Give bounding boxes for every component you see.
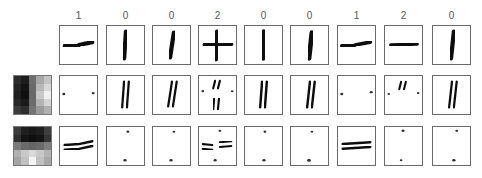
input-image-4 xyxy=(198,25,237,65)
kernel-pixel xyxy=(21,106,28,114)
column-label-6: 0 xyxy=(290,10,329,22)
vertical-stroke-icon xyxy=(107,26,144,64)
cross-stroke-icon xyxy=(199,26,236,64)
kernel-pixel xyxy=(29,106,36,114)
input-image-2 xyxy=(106,25,145,65)
input-image-5 xyxy=(244,25,283,65)
horizontal-response-3 xyxy=(152,126,191,166)
kernel-pixel xyxy=(36,157,43,165)
kernel-pixel xyxy=(21,84,28,92)
input-image-8 xyxy=(384,25,423,65)
kernel-pixel xyxy=(44,135,51,143)
kernel-pixel xyxy=(14,91,21,99)
kernel-pixel xyxy=(29,76,36,84)
input-image-7 xyxy=(337,25,376,65)
cross-stroke-icon xyxy=(199,127,236,165)
vertical-response-9 xyxy=(432,75,471,115)
horizontal-edge-kernel xyxy=(13,126,52,166)
vertical-response-4 xyxy=(198,75,237,115)
cross-stroke-icon xyxy=(385,76,422,114)
vertical-response-7 xyxy=(337,75,376,115)
input-image-1 xyxy=(59,25,98,65)
horizontal-stroke-icon xyxy=(60,76,97,114)
vertical-stroke-icon xyxy=(153,127,190,165)
vertical-response-8 xyxy=(384,75,423,115)
kernel-pixel xyxy=(36,135,43,143)
vertical-stroke-icon xyxy=(433,127,470,165)
column-label-9: 0 xyxy=(432,10,471,22)
kernel-pixel xyxy=(29,150,36,158)
vertical-response-6 xyxy=(290,75,329,115)
kernel-pixel xyxy=(29,157,36,165)
kernel-pixel xyxy=(44,91,51,99)
kernel-pixel xyxy=(44,106,51,114)
vertical-response-2 xyxy=(106,75,145,115)
cross-stroke-icon xyxy=(385,127,422,165)
kernel-pixel xyxy=(21,127,28,135)
kernel-pixel xyxy=(29,84,36,92)
input-image-6 xyxy=(290,25,329,65)
kernel-pixel xyxy=(44,127,51,135)
kernel-pixel xyxy=(21,99,28,107)
kernel-pixel xyxy=(44,142,51,150)
column-label-8: 2 xyxy=(384,10,423,22)
horizontal-response-5 xyxy=(244,126,283,166)
horizontal-response-2 xyxy=(106,126,145,166)
horizontal-response-8 xyxy=(384,126,423,166)
column-label-3: 0 xyxy=(152,10,191,22)
vertical-stroke-icon xyxy=(245,26,282,64)
horizontal-stroke-icon xyxy=(338,127,375,165)
horizontal-response-9 xyxy=(432,126,471,166)
kernel-pixel xyxy=(44,157,51,165)
vertical-stroke-icon xyxy=(245,76,282,114)
kernel-pixel xyxy=(29,142,36,150)
kernel-pixel xyxy=(44,150,51,158)
horizontal-stroke-icon xyxy=(60,127,97,165)
vertical-stroke-icon xyxy=(291,127,328,165)
kernel-pixel xyxy=(21,142,28,150)
kernel-pixel xyxy=(14,99,21,107)
column-label-4: 2 xyxy=(198,10,237,22)
horizontal-stroke-icon xyxy=(338,26,375,64)
kernel-pixel xyxy=(14,76,21,84)
kernel-pixel xyxy=(14,84,21,92)
kernel-pixel xyxy=(36,99,43,107)
kernel-pixel xyxy=(36,91,43,99)
kernel-pixel xyxy=(36,150,43,158)
kernel-pixel xyxy=(29,99,36,107)
kernel-pixel xyxy=(14,157,21,165)
input-image-3 xyxy=(152,25,191,65)
kernel-pixel xyxy=(36,142,43,150)
kernel-pixel xyxy=(29,127,36,135)
kernel-pixel xyxy=(14,150,21,158)
kernel-pixel xyxy=(21,91,28,99)
kernel-pixel xyxy=(44,99,51,107)
vertical-stroke-icon xyxy=(107,76,144,114)
cross-stroke-icon xyxy=(385,26,422,64)
vertical-stroke-icon xyxy=(433,76,470,114)
horizontal-response-6 xyxy=(290,126,329,166)
kernel-pixel xyxy=(14,142,21,150)
kernel-pixel xyxy=(21,150,28,158)
vertical-stroke-icon xyxy=(291,76,328,114)
horizontal-response-1 xyxy=(59,126,98,166)
vertical-stroke-icon xyxy=(153,76,190,114)
horizontal-response-4 xyxy=(198,126,237,166)
kernel-pixel xyxy=(36,127,43,135)
horizontal-stroke-icon xyxy=(338,76,375,114)
input-image-9 xyxy=(432,25,471,65)
column-label-5: 0 xyxy=(244,10,283,22)
vertical-stroke-icon xyxy=(291,26,328,64)
vertical-response-1 xyxy=(59,75,98,115)
horizontal-stroke-icon xyxy=(60,26,97,64)
kernel-pixel xyxy=(29,135,36,143)
vertical-stroke-icon xyxy=(153,26,190,64)
vertical-edge-kernel xyxy=(13,75,52,115)
kernel-pixel xyxy=(36,76,43,84)
kernel-pixel xyxy=(14,106,21,114)
cross-stroke-icon xyxy=(199,76,236,114)
vertical-response-3 xyxy=(152,75,191,115)
kernel-pixel xyxy=(21,76,28,84)
vertical-stroke-icon xyxy=(245,127,282,165)
kernel-pixel xyxy=(14,135,21,143)
